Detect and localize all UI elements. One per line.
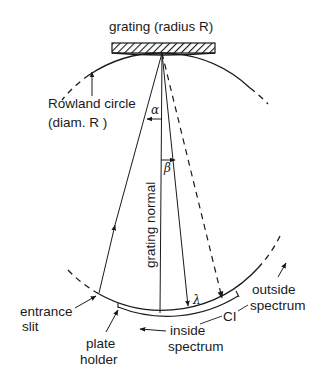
entrance-pointer-arrow bbox=[75, 296, 96, 308]
plate-label-2: holder bbox=[80, 352, 118, 367]
ci-label: CI bbox=[223, 309, 237, 324]
rowland-label-2: (diam. R ) bbox=[48, 115, 107, 130]
plate-label-1: plate bbox=[86, 336, 115, 351]
outside-arrow bbox=[278, 263, 286, 277]
diffracted-ray bbox=[162, 53, 188, 306]
grating-label: grating (radius R) bbox=[109, 19, 213, 34]
inside-label-1: inside bbox=[170, 323, 205, 338]
outside-ray bbox=[162, 53, 222, 298]
rowland-circle bbox=[62, 53, 280, 310]
rowland-label-1: Rowland circle bbox=[48, 96, 136, 111]
entrance-label-1: entrance bbox=[20, 304, 73, 319]
outside-label-2: spectrum bbox=[250, 298, 306, 313]
entrance-label-2: slit bbox=[22, 319, 39, 334]
incident-ray bbox=[99, 225, 115, 293]
rowland-diagram: grating (radius R) Rowland circle (diam.… bbox=[0, 0, 323, 376]
inside-arrow bbox=[140, 329, 166, 331]
beta-label: β bbox=[163, 161, 171, 175]
inside-label-2: spectrum bbox=[168, 339, 224, 354]
outside-label-1: outside bbox=[252, 282, 296, 297]
ci-leader-right bbox=[238, 305, 248, 311]
alpha-label: α bbox=[151, 103, 159, 117]
plate-holder bbox=[118, 291, 239, 316]
grating-normal-label: grating normal bbox=[143, 182, 158, 268]
lambda-label: λ bbox=[192, 293, 201, 307]
plate-pointer-arrow bbox=[106, 310, 118, 332]
grating-normal-line bbox=[160, 53, 162, 313]
